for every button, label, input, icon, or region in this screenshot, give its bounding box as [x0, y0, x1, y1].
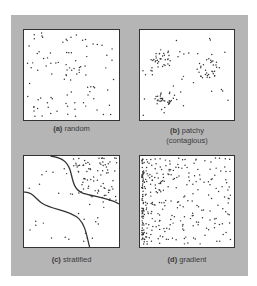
panel-b-label: (b) patchy (contagious) — [139, 126, 235, 145]
panel-a-letter: (a) — [53, 124, 62, 133]
figure-panel: (a) random (b) patchy (contagious) (c) s… — [11, 15, 248, 276]
panel-d-letter: (d) — [168, 255, 178, 264]
panel-b-patchy-box — [139, 29, 235, 121]
panel-d-gradient-box — [139, 155, 235, 248]
patchy-dots — [140, 30, 234, 120]
stratum-boundary-lower — [24, 192, 90, 247]
panel-b-title: patchy — [182, 126, 204, 135]
panel-a-title: random — [64, 124, 89, 133]
panel-d-title: gradient — [179, 255, 206, 264]
panel-b-subtitle: (contagious) — [166, 136, 207, 145]
panel-c-title: stratified — [63, 255, 91, 264]
gradient-dots — [140, 156, 234, 247]
panel-c-label: (c) stratified — [23, 255, 120, 265]
panel-a-random-box — [23, 29, 120, 121]
stratified-dots — [24, 156, 119, 247]
panel-a-label: (a) random — [23, 124, 120, 134]
panel-b-letter: (b) — [170, 126, 180, 135]
random-dots — [24, 30, 119, 120]
panel-c-letter: (c) — [52, 255, 61, 264]
panel-c-stratified-box — [23, 155, 120, 248]
panel-d-label: (d) gradient — [139, 255, 235, 265]
